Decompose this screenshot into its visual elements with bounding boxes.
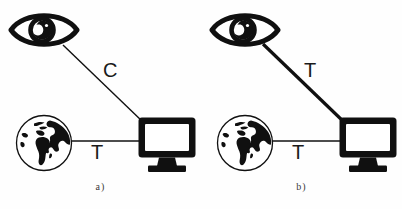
world-globe (14, 113, 74, 173)
diagram-panel-a: C T a) (0, 0, 201, 209)
link-label-observer-display: T (304, 60, 316, 80)
link-label-observer-display: C (103, 60, 117, 80)
link-label-world-display: T (292, 142, 304, 162)
observer-eye (8, 6, 80, 54)
world-globe (215, 113, 275, 173)
panel-caption-b: b) (201, 181, 402, 192)
panel-caption-a: a) (0, 181, 201, 192)
diagram-panel-b: T T b) (201, 0, 402, 209)
eye-icon (8, 6, 80, 54)
observer-eye (209, 6, 281, 54)
monitor-icon (137, 116, 197, 174)
link-observer-display (63, 45, 143, 122)
eye-icon (209, 6, 281, 54)
monitor-icon (338, 116, 398, 174)
link-observer-display (263, 44, 345, 123)
globe-icon (215, 113, 275, 173)
link-label-world-display: T (91, 142, 103, 162)
globe-icon (14, 113, 74, 173)
figure-root: C T a) (0, 0, 402, 209)
display-monitor (338, 116, 398, 174)
display-monitor (137, 116, 197, 174)
